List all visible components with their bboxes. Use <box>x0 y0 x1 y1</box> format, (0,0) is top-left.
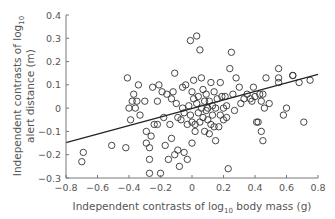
x-tick-label: 0.2 <box>216 182 231 193</box>
data-point <box>127 117 133 123</box>
data-point <box>168 135 174 141</box>
data-point <box>212 138 218 144</box>
x-tick-label: 0.6 <box>279 182 294 193</box>
y-axis-tick-labels: 0.40.30.20.10−0.1−0.2−0.3 <box>38 10 61 184</box>
data-point <box>142 98 148 104</box>
data-point <box>203 91 209 97</box>
data-point <box>290 72 296 78</box>
data-point <box>217 79 223 85</box>
x-tick-label: 0.4 <box>247 182 262 193</box>
data-point <box>231 107 237 113</box>
data-point <box>260 138 266 144</box>
x-tick-label: −0.6 <box>86 182 109 193</box>
x-tick-label: −0.8 <box>54 182 77 193</box>
scatter-chart: −0.8−0.6−0.4−0.200.20.40.60.8 0.40.30.20… <box>0 0 335 219</box>
data-point <box>236 84 242 90</box>
data-point <box>208 79 214 85</box>
data-point <box>241 96 247 102</box>
data-point <box>307 77 313 83</box>
data-point <box>192 128 198 134</box>
data-point <box>131 91 137 97</box>
data-point <box>109 142 115 148</box>
data-point <box>146 156 152 162</box>
data-point <box>135 82 141 88</box>
x-axis-title: Independent contrasts of log10 body mass… <box>73 200 312 215</box>
x-tick-label: 0.8 <box>310 182 325 193</box>
data-point <box>228 49 234 55</box>
data-point <box>132 105 138 111</box>
data-point <box>209 112 215 118</box>
y-axis-title: Independent contrasts of log10 alert dis… <box>11 16 36 176</box>
data-point <box>186 103 192 109</box>
y-tick-label: −0.3 <box>38 173 61 184</box>
data-point <box>189 89 195 95</box>
data-point <box>80 149 86 155</box>
data-point <box>162 142 168 148</box>
data-point <box>146 170 152 176</box>
data-point <box>173 100 179 106</box>
y-tick-label: 0.1 <box>46 79 61 90</box>
data-point <box>187 37 193 43</box>
data-point <box>172 70 178 76</box>
data-point <box>233 75 239 81</box>
y-tick-label: 0.3 <box>46 33 61 44</box>
data-point <box>258 128 264 134</box>
data-point <box>263 75 269 81</box>
data-point <box>146 145 152 151</box>
data-point <box>216 124 222 130</box>
data-point <box>143 140 149 146</box>
data-point <box>137 112 143 118</box>
data-point <box>255 119 261 125</box>
x-tick-label: −0.4 <box>117 182 140 193</box>
data-point <box>253 119 259 125</box>
y-tick-label: −0.2 <box>38 149 61 160</box>
data-point <box>225 166 231 172</box>
data-point <box>198 75 204 81</box>
data-point <box>187 112 193 118</box>
svg-text:alert distance (m): alert distance (m) <box>24 49 36 143</box>
data-point <box>167 121 173 127</box>
data-point <box>266 100 272 106</box>
data-point <box>165 156 171 162</box>
data-point <box>170 89 176 95</box>
data-point <box>154 98 160 104</box>
data-point <box>283 105 289 111</box>
y-tick-label: 0.4 <box>46 10 61 21</box>
data-point <box>280 112 286 118</box>
data-point <box>134 98 140 104</box>
y-tick-label: 0 <box>55 103 61 114</box>
data-point <box>217 112 223 118</box>
data-point <box>79 159 85 165</box>
data-point <box>190 77 196 83</box>
y-tick-label: −0.1 <box>38 126 61 137</box>
x-axis-tick-labels: −0.8−0.6−0.4−0.200.20.40.60.8 <box>54 182 325 193</box>
data-point <box>197 47 203 53</box>
x-tick-label: 0 <box>189 182 195 193</box>
data-point <box>175 147 181 153</box>
data-point <box>184 156 190 162</box>
data-point <box>176 163 182 169</box>
data-point <box>156 82 162 88</box>
data-point <box>148 133 154 139</box>
data-point <box>194 33 200 39</box>
y-tick-label: 0.2 <box>46 56 61 67</box>
data-point <box>275 65 281 71</box>
data-point <box>123 145 129 151</box>
data-point <box>211 89 217 95</box>
data-point <box>189 140 195 146</box>
data-point <box>126 105 132 111</box>
data-point <box>238 100 244 106</box>
data-point <box>227 65 233 71</box>
data-point <box>181 149 187 155</box>
data-point <box>301 119 307 125</box>
data-point <box>275 75 281 81</box>
data-point <box>149 84 155 90</box>
data-point <box>258 98 264 104</box>
data-point <box>200 86 206 92</box>
data-point <box>124 75 130 81</box>
data-points <box>79 33 314 177</box>
data-point <box>172 152 178 158</box>
data-point <box>250 84 256 90</box>
x-tick-label: −0.2 <box>149 182 172 193</box>
